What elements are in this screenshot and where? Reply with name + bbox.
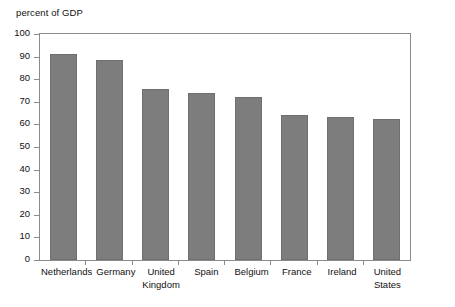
- x-axis-labels: NetherlandsGermanyUnitedKingdomSpainBelg…: [40, 266, 410, 291]
- x-axis-tick-label: Belgium: [229, 266, 274, 291]
- y-axis-tick-mark: [34, 215, 39, 216]
- y-axis-tick-label: 70: [19, 95, 30, 106]
- y-axis-tick-label: 40: [19, 163, 30, 174]
- bar-slot: [225, 34, 271, 260]
- y-axis-tick-label: 80: [19, 72, 30, 83]
- bar: [235, 97, 262, 260]
- chart-title: percent of GDP: [16, 7, 83, 18]
- bar: [188, 93, 215, 260]
- bar-chart: percent of GDP 1009080706050403020100 Ne…: [0, 0, 455, 307]
- y-axis-tick-label: 50: [19, 140, 30, 151]
- x-axis-tick-label: France: [274, 266, 319, 291]
- y-axis-tick-mark: [34, 147, 39, 148]
- y-axis-tick-mark: [34, 124, 39, 125]
- bar-slot: [271, 34, 317, 260]
- bar-series: [40, 34, 410, 260]
- bar-slot: [318, 34, 364, 260]
- bar-slot: [179, 34, 225, 260]
- y-axis-tick-mark: [34, 170, 39, 171]
- x-axis-tick-label: Ireland: [319, 266, 364, 291]
- x-axis-tick-label: Netherlands: [40, 266, 93, 291]
- bar: [96, 60, 123, 260]
- bar: [373, 119, 400, 260]
- y-axis-tick-label: 30: [19, 185, 30, 196]
- bar-slot: [40, 34, 86, 260]
- y-axis-tick-label: 60: [19, 117, 30, 128]
- bar: [281, 115, 308, 260]
- y-axis-tick-mark: [34, 102, 39, 103]
- y-axis-tick-label: 0: [25, 253, 30, 264]
- y-axis-tick-mark: [34, 34, 39, 35]
- y-axis-tick-label: 100: [14, 27, 30, 38]
- bar: [327, 117, 354, 260]
- bar-slot: [86, 34, 132, 260]
- bar-slot: [133, 34, 179, 260]
- y-axis-tick-label: 10: [19, 230, 30, 241]
- y-axis-tick-mark: [34, 237, 39, 238]
- x-axis-tick-label: UnitedStates: [365, 266, 410, 291]
- bar-slot: [364, 34, 410, 260]
- x-axis-tick-label: Spain: [184, 266, 229, 291]
- bar: [142, 89, 169, 260]
- bar: [50, 54, 77, 260]
- y-axis: 1009080706050403020100: [0, 33, 39, 261]
- y-axis-tick-mark: [34, 192, 39, 193]
- y-axis-tick-label: 20: [19, 208, 30, 219]
- y-axis-tick-label: 90: [19, 50, 30, 61]
- y-axis-tick-mark: [34, 79, 39, 80]
- y-axis-tick-mark: [34, 260, 39, 261]
- x-axis-tick-label: UnitedKingdom: [138, 266, 183, 291]
- x-axis-tick-label: Germany: [93, 266, 138, 291]
- y-axis-tick-mark: [34, 57, 39, 58]
